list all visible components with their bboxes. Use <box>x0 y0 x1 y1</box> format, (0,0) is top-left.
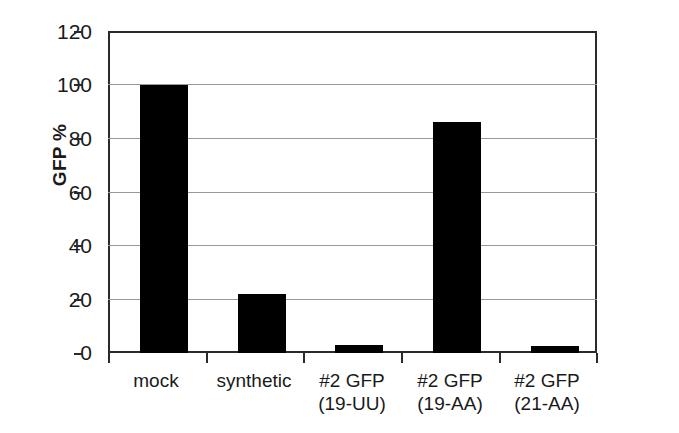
axis-frame-top <box>108 31 597 33</box>
y-tick-mark-60 <box>74 192 82 194</box>
plot-area <box>108 31 597 353</box>
x-category-line2-gfp-19-uu: (19-UU) <box>303 392 401 415</box>
x-category-line1-synthetic: synthetic <box>217 370 292 391</box>
bar-gfp-19-uu <box>335 345 383 353</box>
x-tick-mark-4 <box>499 353 501 363</box>
x-category-line2-gfp-21-aa: (21-AA) <box>498 392 596 415</box>
x-category-line1-gfp-21-aa: #2 GFP <box>514 370 579 391</box>
x-tick-mark-0 <box>108 353 110 363</box>
y-tick-mark-0 <box>74 353 82 355</box>
x-category-line2-gfp-19-aa: (19-AA) <box>401 392 499 415</box>
x-tick-mark-5 <box>596 353 598 363</box>
bar-gfp-21-aa <box>531 346 579 353</box>
y-tick-mark-80 <box>74 138 82 140</box>
x-category-label-gfp-21-aa: #2 GFP (21-AA) <box>498 369 596 415</box>
x-tick-mark-3 <box>401 353 403 363</box>
x-category-label-mock: mock <box>107 369 205 392</box>
x-category-label-synthetic: synthetic <box>205 369 303 392</box>
y-tick-mark-120 <box>74 31 82 33</box>
x-category-label-gfp-19-uu: #2 GFP (19-UU) <box>303 369 401 415</box>
bar-synthetic <box>238 294 286 353</box>
x-tick-mark-1 <box>206 353 208 363</box>
x-category-line1-gfp-19-aa: #2 GFP <box>417 370 482 391</box>
bar-mock <box>140 85 188 353</box>
x-tick-mark-2 <box>303 353 305 363</box>
x-category-label-gfp-19-aa: #2 GFP (19-AA) <box>401 369 499 415</box>
y-tick-mark-20 <box>74 299 82 301</box>
y-tick-mark-40 <box>74 245 82 247</box>
y-tick-mark-100 <box>74 84 82 86</box>
x-category-line1-mock: mock <box>133 370 178 391</box>
bar-chart-figure: GFP % 120 100 80 60 40 20 0 mock <box>0 0 679 433</box>
x-category-line1-gfp-19-uu: #2 GFP <box>319 370 384 391</box>
bar-gfp-19-aa <box>433 122 481 353</box>
